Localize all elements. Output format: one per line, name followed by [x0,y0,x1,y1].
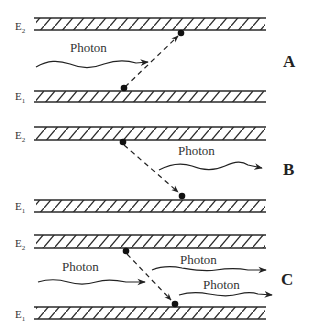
electron-initial [123,248,130,255]
panel-label-c: C [281,270,293,289]
stimulated-photon-label: Photon [203,277,240,292]
electron-final [179,193,186,200]
panel-label-a: A [283,52,296,71]
energy-band-e2 [34,127,266,140]
electron-final [178,30,185,37]
panel-a: E2 E1 Photon A [15,18,296,105]
photon-label: Photon [70,40,107,55]
incoming-photon-wave [36,61,148,68]
energy-band-e1 [34,200,266,212]
level-label-e2: E2 [15,237,26,252]
panel-c: E2 E1 Photon Photon Photon C [15,235,293,323]
energy-band-e2 [34,235,266,248]
electron-transition-arrow [127,254,171,300]
electron-final [172,301,179,308]
emitted-photon-label: Photon [180,252,217,267]
panel-b: E2 E1 Photon B [15,127,294,215]
energy-band-e2 [34,18,266,30]
level-label-e2: E2 [15,129,26,144]
emitted-photon-wave-2 [179,293,272,296]
emitted-photon-wave-1 [152,267,266,271]
electron-initial [121,85,128,92]
electron-transition-arrow [125,36,178,87]
electron-initial [120,139,127,146]
level-label-e2: E2 [15,20,26,35]
incoming-photon-label: Photon [62,259,99,274]
energy-level-diagram: E2 E1 Photon A E2 E1 Photon [0,0,310,336]
level-label-e1: E1 [15,90,26,105]
panel-label-b: B [283,160,294,179]
energy-band-e1 [34,307,266,319]
level-label-e1: E1 [15,200,26,215]
energy-band-e1 [34,91,266,102]
incoming-photon-wave [38,280,145,285]
level-label-e1: E1 [15,308,26,323]
photon-label: Photon [178,143,215,158]
electron-transition-arrow [124,145,178,192]
emitted-photon-wave [159,162,262,170]
